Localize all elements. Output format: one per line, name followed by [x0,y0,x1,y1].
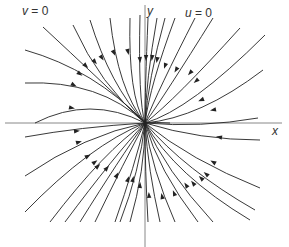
direction-arrow-icon [197,174,204,181]
trajectory-curve [90,20,145,123]
v-equation: = 0 [28,4,48,18]
direction-arrow-icon [209,159,216,166]
u-variable: u [185,6,192,20]
trajectory-curve [25,83,145,123]
trajectory-curve [65,123,145,222]
direction-arrow-icon [186,69,193,76]
x-axis-label: x [272,124,278,138]
direction-arrow-icon [94,162,101,169]
u-equation: = 0 [192,6,212,20]
trajectory-curve [145,35,265,123]
direction-arrow-icon [138,182,143,188]
trajectory-curve [73,25,145,123]
direction-arrow-icon [138,57,143,63]
trajectory-curve [35,109,145,123]
direction-arrow-icon [162,62,168,69]
trajectory-curve [145,123,170,124]
trajectory-curve [145,123,198,222]
trajectory-curve [140,15,145,123]
v-equals-zero-label: v = 0 [22,4,48,18]
trajectory-curve [25,50,145,123]
direction-arrow-icon [189,179,196,186]
trajectory-curve [145,28,240,123]
trajectory-curve [145,123,250,220]
direction-arrow-icon [210,107,217,112]
u-equals-zero-label: u = 0 [185,6,212,20]
phase-portrait [0,0,289,247]
trajectory-curve [145,123,260,140]
y-axis-label: y [147,4,153,18]
trajectory-curve [145,118,258,125]
direction-arrow-icon [144,55,148,61]
direction-arrow-icon [147,192,152,198]
trajectory-curve [50,123,145,222]
trajectory-curve [80,123,145,222]
trajectory-curve [145,123,213,222]
direction-arrow-icon [82,62,89,69]
direction-arrow-icon [216,134,223,139]
trajectory-curve [25,123,145,137]
direction-arrow-icon [197,97,204,103]
